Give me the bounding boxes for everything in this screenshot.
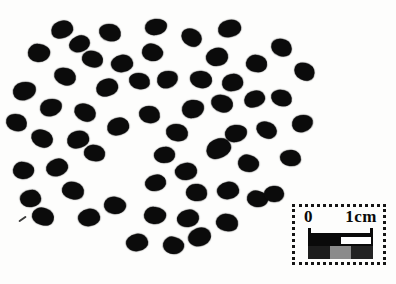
scale-bar-1cm-label: 1cm [345,208,377,227]
seed [216,17,242,38]
seed [279,149,301,166]
seed [185,183,207,202]
seed [77,207,102,228]
seed [105,115,131,137]
seed [60,179,86,201]
seed [181,99,205,119]
seed [11,80,37,102]
seed [185,224,213,249]
seed [125,232,150,253]
seed [143,173,167,194]
seed [82,143,105,162]
seed [291,59,317,83]
seed [220,72,243,92]
scale-segment [339,236,374,246]
seed [236,152,261,174]
seed [4,111,29,133]
seed [204,45,230,68]
seed [244,53,267,73]
seed [209,92,234,113]
seed [110,53,135,74]
seed [152,146,175,165]
scratch-mark [18,216,27,223]
seed [165,122,190,143]
seed-photo: 0 1cm [0,0,396,284]
seed [94,76,120,99]
seed [178,25,204,49]
seed [161,234,185,256]
seed [269,88,293,109]
seed [52,65,78,87]
scale-bar-bracket [308,228,373,236]
scale-segment [330,246,352,259]
seed [215,212,240,233]
seed [103,195,128,216]
seed [80,49,104,70]
seed [155,69,179,90]
seed [49,17,75,40]
seed [290,113,314,133]
scale-segment [308,236,339,246]
seed [143,205,167,224]
scale-bar-lower-row [308,246,373,259]
seed [72,100,98,123]
seed [97,21,122,42]
seed [174,161,199,182]
seed [137,104,160,124]
seed [127,71,150,90]
seed [241,88,266,110]
scale-bar-upper-row [308,236,373,246]
seed [175,207,201,229]
seed [29,127,55,150]
seed [39,97,64,118]
seed [19,188,42,207]
scale-segment [351,246,373,259]
seed [253,119,278,141]
seed [268,35,294,58]
seed [44,156,70,179]
seed [27,43,50,63]
scale-segment [308,246,330,259]
seed [189,69,213,88]
scale-bar-zero-label: 0 [304,208,313,227]
seed [216,180,241,201]
seed [144,18,167,36]
seed [30,205,56,228]
scale-bar: 0 1cm [292,204,386,265]
seed [12,160,35,179]
seed [139,41,164,64]
